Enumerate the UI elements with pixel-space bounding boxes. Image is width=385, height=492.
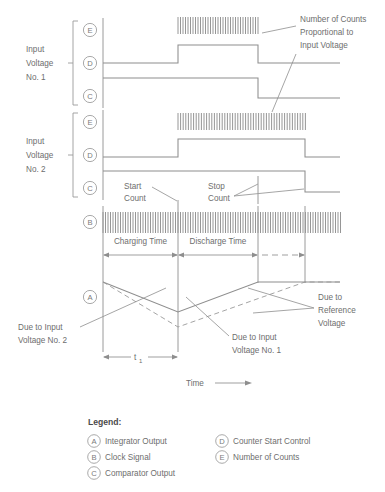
marker-E-group-1: E <box>83 23 96 36</box>
legend-text-B: Clock Signal <box>105 453 151 462</box>
interval-discharge-time-arrow-left <box>178 253 184 258</box>
legend: Legend: A Integrator Output B Clock Sign… <box>88 417 311 479</box>
annotation-start-count: Start Count <box>124 182 177 203</box>
annotation-due-reference-line3: Voltage <box>318 319 346 328</box>
bracket-group-1 <box>73 21 78 105</box>
waveform-integrator-solid <box>103 282 340 312</box>
waveform-integrator-dashed <box>103 282 340 327</box>
annotation-stop-count-leader-2 <box>234 189 304 196</box>
interval-discharge-time-arrow-right <box>252 253 258 258</box>
legend-text-C: Comparator Output <box>105 469 176 478</box>
annotation-due-input-v1-line2: Voltage No. 1 <box>232 346 282 355</box>
annotation-start-count-line1: Start <box>124 182 142 191</box>
annotation-due-input-v1-leader <box>186 297 229 336</box>
annotation-due-input-v1-line1: Due to Input <box>232 333 277 342</box>
group-2-label-line3: No. 2 <box>26 165 46 174</box>
waveform-C-group-1 <box>103 78 340 98</box>
legend-key-A: A <box>91 437 97 446</box>
interval-t1: t 1 <box>103 350 178 364</box>
legend-text-E: Number of Counts <box>233 453 299 462</box>
group-input-voltage-2: Input Voltage No. 2 E <box>26 110 340 200</box>
marker-A-letter: A <box>87 293 93 302</box>
annotation-stop-count: Stop Count <box>208 182 304 203</box>
interval-t1-arrow-left <box>103 355 109 360</box>
legend-item-D: D Counter Start Control <box>216 435 311 448</box>
marker-D-group-1: D <box>83 56 96 69</box>
time-axis: Time <box>186 379 252 388</box>
marker-C-group-2-letter: C <box>87 184 93 193</box>
annotation-due-reference-leader-1 <box>248 288 314 308</box>
group-1-label-line1: Input <box>26 45 45 54</box>
group-1-label-line2: Voltage <box>26 59 54 68</box>
diagram-svg: Input Voltage No. 1 E <box>0 0 385 492</box>
legend-text-D: Counter Start Control <box>233 437 311 446</box>
marker-D-group-2-letter: D <box>87 151 93 160</box>
annotation-due-to-input-v1: Due to Input Voltage No. 1 <box>186 297 282 355</box>
group-2-label-line2: Voltage <box>26 151 54 160</box>
legend-key-C: C <box>91 469 97 478</box>
annotation-start-count-leader <box>152 187 177 201</box>
interval-charging-time-arrow-left <box>103 253 109 258</box>
annotation-due-reference-line2: Reference <box>318 306 356 315</box>
marker-D-group-2: D <box>83 148 96 161</box>
waveform-D-group-2 <box>103 139 340 157</box>
marker-D-group-1-letter: D <box>87 59 93 68</box>
interval-charging-time-arrow-right <box>172 253 178 258</box>
legend-item-C: C Comparator Output <box>88 467 176 480</box>
marker-C-group-1-letter: C <box>87 92 93 101</box>
legend-key-E: E <box>219 453 224 462</box>
annotation-counts-leader-1 <box>262 26 296 33</box>
interval-extra-discharge <box>262 253 305 258</box>
annotation-stop-count-line1: Stop <box>208 182 225 191</box>
timing-diagram-figure: Input Voltage No. 1 E <box>0 0 385 492</box>
legend-item-A: A Integrator Output <box>88 435 168 448</box>
annotation-due-reference-leader-2 <box>253 308 314 313</box>
interval-extra-discharge-arrow-right <box>299 253 305 258</box>
group-1-label-line3: No. 1 <box>26 73 46 82</box>
time-axis-arrow <box>245 380 252 385</box>
legend-item-E: E Number of Counts <box>216 451 300 464</box>
time-axis-label: Time <box>186 379 204 388</box>
annotation-due-input-v2-line2: Voltage No. 2 <box>18 336 68 345</box>
interval-charging-time: Charging Time <box>103 237 178 257</box>
group-2-label-line1: Input <box>26 137 45 146</box>
interval-t1-arrow-right <box>172 355 178 360</box>
annotation-due-to-reference: Due to Reference Voltage <box>248 288 356 328</box>
annotation-counts-line2: Proportional to <box>300 28 354 37</box>
marker-A: A <box>83 290 96 303</box>
group-clock-signal: B <box>83 212 340 233</box>
marker-E-group-1-letter: E <box>87 26 92 35</box>
interval-discharge-time-label: Discharge Time <box>190 237 247 246</box>
legend-text-A: Integrator Output <box>105 437 168 446</box>
annotation-due-input-v2-leader <box>80 288 166 327</box>
marker-C-group-2: C <box>83 181 96 194</box>
interval-charging-time-label: Charging Time <box>114 237 168 246</box>
marker-E-group-2: E <box>83 115 96 128</box>
legend-item-B: B Clock Signal <box>88 451 151 464</box>
annotation-counts-line3: Input Voltage <box>300 41 348 50</box>
pulse-train-counts-2 <box>178 113 305 130</box>
legend-title: Legend: <box>88 417 122 427</box>
annotation-due-reference-line1: Due to <box>318 293 343 302</box>
annotation-stop-count-line2: Count <box>208 194 231 203</box>
annotation-due-input-v2-line1: Due to Input <box>18 323 63 332</box>
marker-E-group-2-letter: E <box>87 118 92 127</box>
pulse-train-counts-1 <box>178 17 258 34</box>
annotation-counts-line1: Number of Counts <box>300 15 366 24</box>
marker-C-group-1: C <box>83 89 96 102</box>
marker-B-letter: B <box>87 218 92 227</box>
legend-key-D: D <box>219 437 225 446</box>
legend-key-B: B <box>91 453 96 462</box>
marker-B: B <box>83 215 96 228</box>
annotation-start-count-line2: Count <box>124 194 147 203</box>
interval-discharge-time: Discharge Time <box>178 237 258 257</box>
bracket-group-2 <box>73 113 78 197</box>
